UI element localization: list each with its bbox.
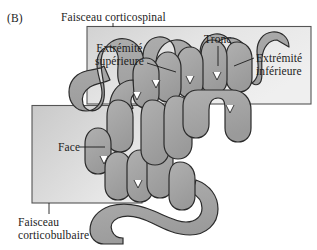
label-ext-sup-line2: supérieure bbox=[95, 55, 144, 67]
label-tronc: Tronc bbox=[204, 33, 232, 46]
label-face: Face bbox=[58, 141, 80, 154]
label-extremite-superieure: Extrémitésupérieure bbox=[95, 42, 144, 68]
label-ext-sup-line1: Extrémité bbox=[96, 42, 142, 54]
label-corticobulbaire-line2: corticobulbaire bbox=[18, 229, 89, 241]
label-corticobulbaire-line1: Faisceau bbox=[18, 216, 59, 228]
label-extremite-inferieure: Extrémitéinférieure bbox=[256, 52, 302, 78]
label-ext-inf-line2: inférieure bbox=[256, 65, 302, 77]
label-faisceau-corticobulbaire: Faisceaucorticobulbaire bbox=[18, 216, 89, 242]
figure-panel-b: (B) Faisceau corticospinal Faisceaucorti… bbox=[0, 0, 317, 250]
diagram-canvas bbox=[0, 0, 317, 250]
label-faisceau-corticospinal: Faisceau corticospinal bbox=[61, 11, 166, 24]
label-ext-inf-line1: Extrémité bbox=[256, 52, 302, 64]
panel-letter: (B) bbox=[7, 12, 23, 25]
